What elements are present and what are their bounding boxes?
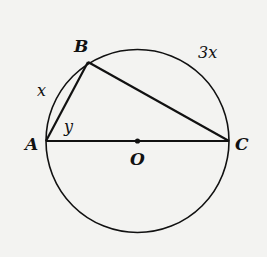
circle-diagram: B 3x x y A C O bbox=[0, 0, 267, 257]
label-a: A bbox=[23, 134, 38, 154]
label-angle-y: y bbox=[63, 117, 74, 136]
label-c: C bbox=[235, 134, 249, 154]
label-arc-ab: x bbox=[37, 81, 46, 100]
label-b: B bbox=[73, 36, 88, 56]
label-arc-bc: 3x bbox=[198, 43, 217, 62]
chord-bc bbox=[88, 62, 229, 141]
label-o: O bbox=[130, 149, 145, 169]
center-point bbox=[135, 138, 140, 143]
